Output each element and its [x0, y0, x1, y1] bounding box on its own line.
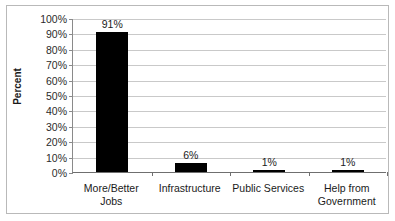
bar	[332, 170, 364, 172]
x-category-label-line: Help from	[308, 182, 387, 195]
bar	[253, 170, 285, 172]
y-tick-label: 30%	[46, 122, 67, 133]
y-tick-mark	[69, 142, 73, 143]
bar-value-label: 6%	[183, 150, 198, 161]
bar	[175, 163, 207, 172]
y-tick-label: 90%	[46, 29, 67, 40]
y-tick-label: 100%	[40, 14, 67, 25]
y-tick-label: 70%	[46, 60, 67, 71]
y-tick-mark	[69, 127, 73, 128]
x-category-label-line: Public Services	[229, 182, 308, 195]
x-tick-mark	[152, 172, 153, 176]
y-tick-label: 40%	[46, 106, 67, 117]
y-tick-mark	[69, 173, 73, 174]
y-tick-label: 60%	[46, 75, 67, 86]
y-tick-label: 0%	[52, 168, 67, 179]
y-tick-mark	[69, 81, 73, 82]
x-tick-mark	[309, 172, 310, 176]
bar-value-label: 1%	[340, 157, 355, 168]
y-tick-label: 80%	[46, 45, 67, 56]
y-tick-mark	[69, 158, 73, 159]
x-category-label-line: Jobs	[72, 195, 151, 208]
x-category-label: Public Services	[229, 182, 308, 195]
x-category-label-line: Government	[308, 195, 387, 208]
x-tick-mark	[387, 172, 388, 176]
y-tick-mark	[69, 65, 73, 66]
plot-area: 100%90%80%70%60%50%40%30%20%10%0% 91%6%1…	[72, 19, 386, 173]
x-category-label: Help fromGovernment	[308, 182, 387, 208]
y-axis-title: Percent	[12, 57, 23, 117]
y-tick-mark	[69, 96, 73, 97]
chart-screenshot: Percent 100%90%80%70%60%50%40%30%20%10%0…	[0, 0, 395, 221]
x-tick-mark	[230, 172, 231, 176]
y-tick-mark	[69, 111, 73, 112]
y-tick-label: 20%	[46, 137, 67, 148]
y-tick-mark	[69, 19, 73, 20]
bar	[96, 32, 128, 172]
chart-frame: Percent 100%90%80%70%60%50%40%30%20%10%0…	[6, 5, 389, 214]
x-category-label: More/BetterJobs	[72, 182, 151, 208]
x-category-label: Infrastructure	[151, 182, 230, 195]
x-category-label-line: Infrastructure	[151, 182, 230, 195]
bar-value-label: 91%	[102, 19, 123, 30]
y-tick-label: 10%	[46, 152, 67, 163]
y-tick-label: 50%	[46, 91, 67, 102]
x-category-label-line: More/Better	[72, 182, 151, 195]
y-tick-mark	[69, 50, 73, 51]
y-tick-mark	[69, 34, 73, 35]
bar-value-label: 1%	[262, 157, 277, 168]
